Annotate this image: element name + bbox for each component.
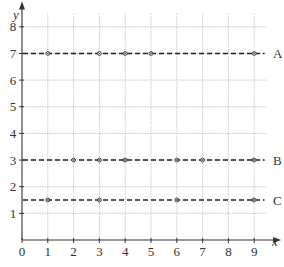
y-tick-label: 3: [10, 153, 17, 168]
x-tick-label: 2: [70, 244, 77, 259]
y-axis-label: y: [11, 7, 19, 22]
grid: [22, 13, 267, 240]
x-tick-label: 6: [174, 244, 181, 259]
x-tick-label: 5: [148, 244, 155, 259]
y-axis-arrow-icon: [19, 1, 25, 9]
x-tick-label: 3: [96, 244, 103, 259]
y-tick-label: 7: [10, 46, 17, 61]
x-tick-label: 8: [225, 244, 232, 259]
y-tick-label: 4: [10, 126, 17, 141]
chart-svg: ABC 012345678912345678 x y: [0, 0, 284, 267]
x-tick-label: 9: [251, 244, 258, 259]
x-axis-label: x: [271, 234, 278, 249]
axes: [19, 1, 281, 243]
x-tick-label: 0: [19, 244, 26, 259]
chart: ABC 012345678912345678 x y: [0, 0, 284, 267]
series-label-c: C: [273, 193, 282, 208]
series-label-a: A: [273, 46, 283, 61]
x-tick-label: 7: [199, 244, 206, 259]
series-group: ABC: [23, 46, 283, 208]
series-label-b: B: [273, 153, 282, 168]
y-tick-label: 6: [10, 73, 17, 88]
x-tick-label: 1: [45, 244, 52, 259]
x-tick-label: 4: [122, 244, 129, 259]
y-tick-label: 1: [10, 206, 17, 221]
y-tick-label: 2: [10, 179, 17, 194]
y-tick-label: 5: [10, 99, 17, 114]
